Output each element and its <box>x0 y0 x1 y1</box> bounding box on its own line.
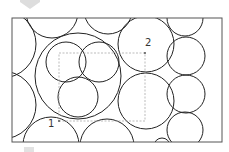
circle-col-3[interactable] <box>167 112 203 148</box>
circle-bottom-arc-2[interactable] <box>80 119 134 152</box>
top-marker-icon <box>20 0 40 9</box>
circles-group <box>0 0 205 152</box>
point-2-marker[interactable] <box>144 52 146 54</box>
point-1-label: 1 <box>48 118 54 129</box>
circle-col-1[interactable] <box>167 37 205 75</box>
circle-left-arc-1[interactable] <box>0 10 36 78</box>
circle-inner-top-left[interactable] <box>46 42 86 82</box>
circle-bottom-tiny-arc[interactable] <box>154 138 170 152</box>
selection-rectangle[interactable] <box>59 53 145 121</box>
circle-top-arc-2[interactable] <box>84 0 132 34</box>
circle-packing-diagram: 12 <box>0 0 229 152</box>
circle-inner-top-right[interactable] <box>79 42 119 82</box>
circle-inner-bottom[interactable] <box>58 77 98 117</box>
circle-left-arc-2[interactable] <box>0 71 36 139</box>
bottom-marker-icon <box>24 147 34 152</box>
point-1-marker[interactable] <box>58 120 60 122</box>
point-2-label: 2 <box>145 37 151 48</box>
